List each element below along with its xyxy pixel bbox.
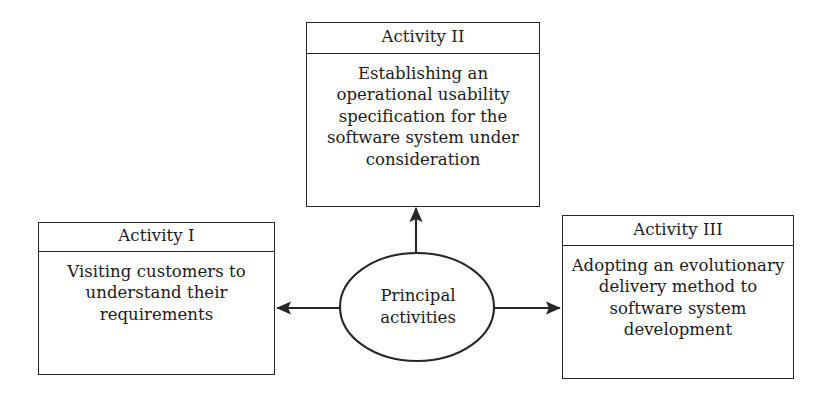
node-activity-2-body: Establishing an operational usability sp… xyxy=(307,54,539,206)
node-activity-1-title: Activity I xyxy=(39,223,274,252)
diagram-canvas: Principal activities Activity II Establi… xyxy=(0,0,832,402)
node-activity-1-body: Visiting customers to understand their r… xyxy=(39,252,274,374)
node-activity-3[interactable]: Activity III Adopting an evolutionary de… xyxy=(562,215,794,379)
hub-ellipse xyxy=(340,253,494,361)
node-activity-1[interactable]: Activity I Visiting customers to underst… xyxy=(38,222,275,375)
node-activity-2-title: Activity II xyxy=(307,23,539,54)
node-activity-2[interactable]: Activity II Establishing an operational … xyxy=(306,22,540,207)
node-activity-3-title: Activity III xyxy=(563,216,793,246)
node-activity-3-body: Adopting an evolutionary delivery method… xyxy=(563,246,793,378)
